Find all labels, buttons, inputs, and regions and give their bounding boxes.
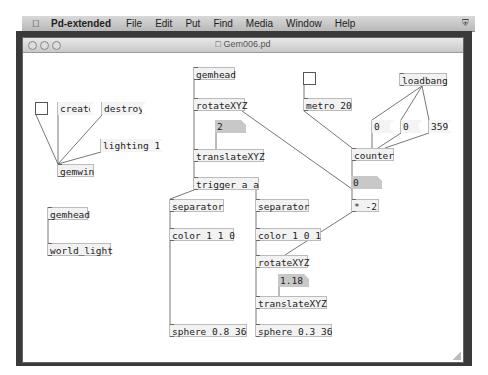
number-counter-output[interactable]: 0 [351, 176, 382, 189]
menu-bar:  Pd-extended File Edit Put Find Media W… [22, 16, 475, 32]
object-loadbang[interactable]: loadbang [399, 73, 447, 86]
object-world-light[interactable]: world_light [47, 243, 111, 256]
menu-find[interactable]: Find [213, 18, 232, 29]
object-gemhead[interactable]: gemhead [193, 67, 235, 80]
menu-put[interactable]: Put [185, 18, 200, 29]
message-lighting[interactable]: lighting 1 [100, 139, 163, 152]
object-color-magenta[interactable]: color 1 0 1 [255, 228, 321, 241]
object-separator-left[interactable]: separator [169, 199, 224, 212]
object-gemwin[interactable]: gemwin [57, 164, 94, 177]
object-color-yellow[interactable]: color 1 1 0 [169, 228, 234, 241]
menu-window[interactable]: Window [286, 18, 322, 29]
shield-icon[interactable]: ⛨ [462, 18, 469, 29]
title-bar[interactable]: □ Gem006.pd [23, 38, 463, 53]
menu-help[interactable]: Help [335, 18, 356, 29]
object-rotatexyz-2[interactable]: rotateXYZ [255, 255, 308, 268]
menu-media[interactable]: Media [246, 18, 273, 29]
message-create[interactable]: create [57, 102, 94, 115]
object-gemhead-light[interactable]: gemhead [47, 207, 88, 220]
object-translatexyz[interactable]: translateXYZ [193, 149, 264, 162]
toggle-gemwin[interactable] [35, 102, 48, 115]
window-title: □ Gem006.pd [23, 39, 463, 49]
message-destroy[interactable]: destroy [101, 102, 146, 115]
patch-window: □ Gem006.pd [22, 37, 464, 363]
object-multiply[interactable]: * -2 [351, 199, 379, 212]
toggle-metro[interactable] [303, 72, 316, 85]
object-rotatexyz[interactable]: rotateXYZ [193, 98, 245, 111]
object-trigger[interactable]: trigger a a [193, 177, 259, 190]
object-sphere-small[interactable]: sphere 0.3 36 [255, 324, 332, 337]
apple-icon[interactable]:  [32, 19, 42, 29]
object-translatexyz-2[interactable]: translateXYZ [255, 296, 327, 309]
object-counter[interactable]: counter [351, 148, 394, 161]
menu-edit[interactable]: Edit [155, 18, 172, 29]
number-translate2-x[interactable]: 1.18 [278, 274, 309, 287]
menu-app-name[interactable]: Pd-extended [51, 18, 111, 29]
number-translate-y[interactable]: 2 [215, 120, 246, 133]
object-metro[interactable]: metro 20 [303, 98, 352, 111]
object-sphere-large[interactable]: sphere 0.8 36 [169, 324, 247, 337]
object-separator-right[interactable]: separator [255, 199, 309, 212]
patch-canvas[interactable]: create destroy lighting 1 gemwin gemhead… [23, 53, 463, 362]
menu-file[interactable]: File [126, 18, 142, 29]
resize-handle[interactable] [453, 352, 461, 360]
